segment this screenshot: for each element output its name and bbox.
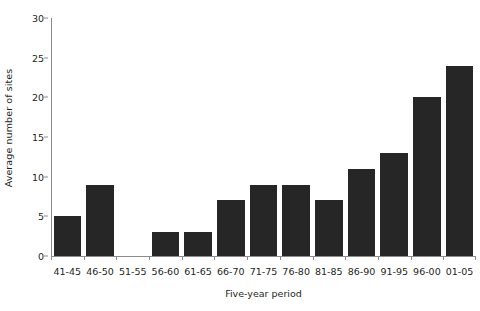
x-tick-mark: [411, 256, 412, 260]
bar-slot: [84, 18, 117, 256]
bar[interactable]: [250, 185, 277, 256]
x-tick-label: 51-55: [119, 266, 147, 277]
x-tick-mark: [149, 256, 150, 260]
x-tick-mark: [313, 256, 314, 260]
bar[interactable]: [446, 66, 473, 256]
bar-series: [51, 18, 476, 256]
y-tick-mark: [44, 137, 48, 138]
x-tick-label: 96-00: [413, 266, 441, 277]
y-tick-mark: [44, 176, 48, 177]
x-tick-mark: [116, 256, 117, 260]
y-tick-label: 15: [32, 132, 44, 143]
bar-slot: [411, 18, 444, 256]
bar-chart-figure: Average number of sites 051015202530 41-…: [0, 0, 480, 311]
bar-slot: [149, 18, 182, 256]
x-axis-title: Five-year period: [51, 288, 476, 299]
bar[interactable]: [184, 232, 211, 256]
bar[interactable]: [348, 169, 375, 256]
x-tick-mark: [84, 256, 85, 260]
plot-area: [51, 18, 476, 256]
bar[interactable]: [315, 200, 342, 256]
bar-slot: [116, 18, 149, 256]
bar-slot: [443, 18, 476, 256]
y-tick-mark: [44, 97, 48, 98]
x-tick-label: 46-50: [86, 266, 114, 277]
bar[interactable]: [54, 216, 81, 256]
y-tick-mark: [44, 57, 48, 58]
x-tick-mark: [345, 256, 346, 260]
x-tick-mark: [247, 256, 248, 260]
x-tick-label: 86-90: [348, 266, 376, 277]
x-tick-mark: [214, 256, 215, 260]
y-axis-title: Average number of sites: [0, 0, 16, 256]
x-tick-label: 76-80: [282, 266, 310, 277]
bar-slot: [345, 18, 378, 256]
y-tick-label: 20: [32, 92, 44, 103]
x-tick-label: 41-45: [54, 266, 82, 277]
x-tick-mark: [280, 256, 281, 260]
y-tick-label: 30: [32, 13, 44, 24]
bar[interactable]: [152, 232, 179, 256]
y-tick-mark: [44, 256, 48, 257]
bar-slot: [182, 18, 215, 256]
y-axis-tick-group: 051015202530: [16, 0, 50, 311]
x-tick-mark: [378, 256, 379, 260]
y-tick-mark: [44, 18, 48, 19]
bar[interactable]: [86, 185, 113, 256]
x-tick-label: 66-70: [217, 266, 245, 277]
bar-slot: [214, 18, 247, 256]
x-tick-label: 61-65: [184, 266, 212, 277]
bar[interactable]: [380, 153, 407, 256]
bar[interactable]: [282, 185, 309, 256]
x-tick-label: 91-95: [380, 266, 408, 277]
y-tick-label: 25: [32, 52, 44, 63]
bar-slot: [280, 18, 313, 256]
x-tick-mark: [182, 256, 183, 260]
x-tick-label: 56-60: [152, 266, 180, 277]
x-tick-mark: [51, 256, 52, 260]
y-tick-mark: [44, 216, 48, 217]
x-axis-tick-end: [475, 256, 476, 260]
y-tick-label: 10: [32, 171, 44, 182]
x-tick-label: 01-05: [446, 266, 474, 277]
bar-slot: [313, 18, 346, 256]
bar-slot: [51, 18, 84, 256]
x-tick-mark: [443, 256, 444, 260]
x-tick-label: 71-75: [250, 266, 278, 277]
bar-slot: [378, 18, 411, 256]
bar[interactable]: [217, 200, 244, 256]
x-tick-label: 81-85: [315, 266, 343, 277]
bar-slot: [247, 18, 280, 256]
bar[interactable]: [413, 97, 440, 256]
